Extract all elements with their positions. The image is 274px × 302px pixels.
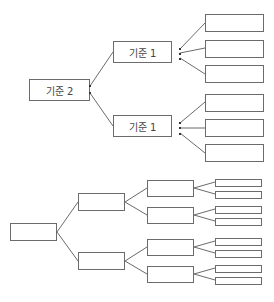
connector-dot: [179, 53, 181, 55]
top-leaf-node: [205, 94, 264, 112]
bottom-level1-node: [78, 193, 125, 211]
bottom-leaf-node: [215, 179, 262, 187]
bottom-level2-node: [147, 207, 194, 224]
bottom-level2-node: [147, 180, 194, 197]
node-label: 기준 1: [129, 45, 157, 60]
top-branch-node-2: 기준 1: [113, 115, 172, 137]
top-leaf-node: [205, 119, 264, 137]
top-leaf-node: [205, 14, 264, 32]
top-branch-node-1: 기준 1: [113, 41, 172, 63]
connector-dot: [179, 133, 181, 135]
bottom-level2-node: [147, 266, 194, 283]
bottom-leaf-node: [215, 191, 262, 199]
bottom-level1-node: [78, 252, 125, 270]
top-leaf-node: [205, 40, 264, 58]
bottom-leaf-node: [215, 238, 262, 246]
connector-dot: [89, 92, 91, 94]
top-leaf-node: [205, 65, 264, 83]
top-leaf-node: [205, 144, 264, 162]
bottom-leaf-node: [215, 206, 262, 214]
bottom-leaf-node: [215, 277, 262, 285]
bottom-level2-node: [147, 239, 194, 256]
connector-dot: [179, 58, 181, 60]
bottom-leaf-node: [215, 250, 262, 258]
connector-dot: [179, 48, 181, 50]
connector-dot: [179, 122, 181, 124]
bottom-leaf-node: [215, 218, 262, 226]
node-label: 기준 2: [46, 83, 74, 98]
bottom-leaf-node: [215, 265, 262, 273]
connector-dot: [179, 127, 181, 129]
node-label: 기준 1: [129, 119, 157, 134]
bottom-root-node: [10, 223, 57, 241]
connector-dot: [89, 85, 91, 87]
top-root-node: 기준 2: [29, 79, 90, 101]
